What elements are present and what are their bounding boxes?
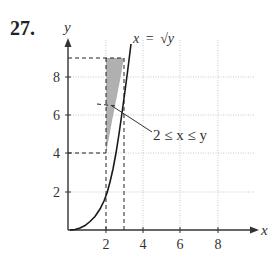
curve-label-rhs: √y — [160, 31, 175, 46]
region-label: 2 ≤ x ≤ y — [153, 127, 207, 143]
region-leader-line — [112, 106, 152, 132]
x-axis-arrow-icon — [250, 227, 259, 234]
x-tick-label: 4 — [140, 237, 147, 252]
x-tick-label: 2 — [103, 237, 110, 252]
y-tick-label: 6 — [53, 108, 60, 123]
y-tick-label: 8 — [53, 70, 60, 85]
x-tick-label: 6 — [177, 237, 184, 252]
curve-label-lhs: x — [132, 31, 140, 46]
curve-x-equals-sqrt-y — [70, 44, 131, 230]
y-tick-label: 2 — [53, 185, 60, 200]
ticks — [65, 77, 218, 233]
y-axis-label: y — [62, 19, 71, 35]
shaded-region — [106, 58, 124, 153]
curve-label-eq: = — [146, 31, 154, 46]
curve-label: x = √y — [132, 31, 175, 46]
curve-sqrt — [70, 118, 131, 230]
y-tick-label: 4 — [53, 146, 60, 161]
x-tick-label: 8 — [215, 237, 222, 252]
y-axis-arrow-icon — [65, 38, 72, 47]
x-axis-label: x — [260, 222, 268, 238]
problem-number: 27. — [10, 17, 35, 39]
